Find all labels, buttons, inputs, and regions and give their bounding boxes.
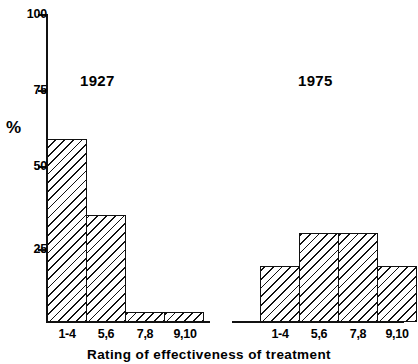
bar-1927-9-10 bbox=[164, 312, 204, 322]
bar-1975-5-6 bbox=[299, 233, 339, 322]
bar-1975-7-8 bbox=[338, 233, 378, 322]
y-tick-100: 100 bbox=[0, 14, 47, 16]
bar-1927-1-4 bbox=[47, 139, 87, 322]
y-tick-label: 50 bbox=[15, 160, 47, 172]
x-label-1975-5-6: 5,6 bbox=[299, 327, 339, 341]
chart-figure: 100 75 50 25 % 1927 1-4 5,6 7,8 9,10 197… bbox=[0, 0, 418, 364]
x-label-1927-9-10: 9,10 bbox=[164, 327, 206, 341]
y-tick-label: 25 bbox=[15, 243, 47, 255]
bar-1975-1-4 bbox=[260, 266, 300, 322]
x-label-1927-5-6: 5,6 bbox=[86, 327, 126, 341]
bar-1927-5-6 bbox=[86, 215, 126, 322]
panel-title-1975: 1975 bbox=[298, 72, 333, 89]
y-tick-50: 50 bbox=[0, 166, 47, 168]
y-tick-label: 75 bbox=[15, 84, 47, 96]
x-label-1927-7-8: 7,8 bbox=[125, 327, 165, 341]
y-tick-75: 75 bbox=[0, 90, 47, 92]
x-label-1975-7-8: 7,8 bbox=[338, 327, 378, 341]
x-label-1975-1-4: 1-4 bbox=[260, 327, 300, 341]
bar-1975-9-10 bbox=[377, 266, 417, 322]
y-tick-25: 25 bbox=[0, 249, 47, 251]
x-axis-caption: Rating of effectiveness of treatment bbox=[0, 347, 418, 362]
bar-1927-7-8 bbox=[125, 312, 165, 322]
x-label-1927-1-4: 1-4 bbox=[47, 327, 87, 341]
y-tick-label: 100 bbox=[15, 8, 47, 20]
x-label-1975-9-10: 9,10 bbox=[376, 327, 418, 341]
y-axis-title: % bbox=[6, 118, 21, 138]
panel-title-1927: 1927 bbox=[80, 72, 115, 89]
